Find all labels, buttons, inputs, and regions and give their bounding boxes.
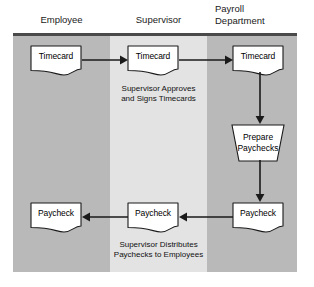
node-timecard-employee-label: Timecard [30, 51, 82, 61]
caption-supervisor-approves: Supervisor Approves and Signs Timecards [108, 84, 209, 104]
node-timecard-employee: Timecard [30, 45, 82, 76]
node-paycheck-payroll: Paycheck [232, 202, 284, 233]
node-timecard-supervisor-label: Timecard [127, 51, 179, 61]
lane-header-employee: Employee [13, 14, 110, 26]
arrow-paycheck-supervisor-to-employee [82, 212, 128, 222]
node-prepare-paychecks: Prepare Paychecks [231, 124, 285, 162]
node-paycheck-supervisor: Paycheck [127, 202, 179, 233]
node-prepare-paychecks-label: Prepare Paychecks [231, 132, 285, 153]
payroll-flowchart: Employee Supervisor Payroll Department T… [0, 0, 314, 287]
lane-header-supervisor: Supervisor [110, 14, 207, 26]
arrow-paycheck-payroll-to-supervisor [179, 212, 233, 222]
node-paycheck-supervisor-label: Paycheck [127, 208, 179, 218]
lane-header-payroll: Payroll Department [215, 3, 310, 26]
node-paycheck-payroll-label: Paycheck [232, 208, 284, 218]
arrow-timecard-employee-to-supervisor [82, 55, 128, 65]
node-timecard-payroll-label: Timecard [232, 51, 284, 61]
lane-header-row: Employee Supervisor Payroll Department [0, 0, 314, 33]
node-paycheck-employee-label: Paycheck [30, 208, 82, 218]
node-timecard-supervisor: Timecard [127, 45, 179, 76]
arrow-timecard-supervisor-to-payroll [179, 55, 233, 65]
arrow-timecard-payroll-to-prepare [255, 72, 265, 124]
node-paycheck-employee: Paycheck [30, 202, 82, 233]
caption-supervisor-distributes: Supervisor Distributes Paychecks to Empl… [106, 240, 211, 260]
arrow-prepare-to-paycheck-payroll [255, 160, 265, 202]
